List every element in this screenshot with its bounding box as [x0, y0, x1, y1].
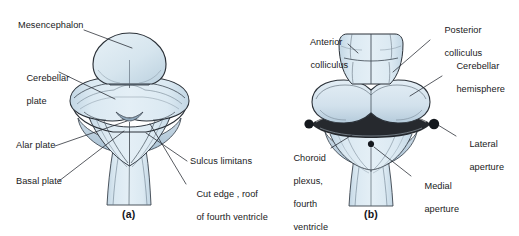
- label-anterior-colliculus-line2: colliculus: [310, 60, 348, 70]
- leader-anterior-colliculus: [348, 44, 358, 53]
- leader-posterior-colliculus: [393, 40, 430, 72]
- sulcus-limitans-line-right: [131, 121, 155, 163]
- sulcus-limitans-line-left: [104, 121, 128, 163]
- label-choroid-plexus-line1: Choroid: [293, 153, 326, 163]
- label-choroid-plexus-line4: ventricle: [293, 222, 328, 232]
- label-cut-edge-line2: of fourth ventricle: [196, 212, 267, 222]
- leader-mesencephalon: [84, 30, 132, 48]
- label-cerebellar-plate-line2: plate: [26, 96, 46, 106]
- tectum-plate-b: [339, 34, 403, 84]
- fourth-ventricle-floor-a: [88, 115, 171, 166]
- cerebellar-plate-a: [70, 70, 189, 121]
- lateral-aperture-marker: [429, 119, 439, 129]
- caption-panel-b: (b): [364, 208, 378, 220]
- medulla-stem-a: [107, 150, 151, 205]
- cerebellar-hemispheres-b: [312, 80, 430, 123]
- choroid-plexus-band: [311, 112, 431, 138]
- anatomy-figure: Mesencephalon Cerebellar plate Alar plat…: [0, 0, 519, 236]
- leader-cerebellar-hemisphere: [410, 76, 442, 96]
- label-medial-aperture: Medial aperture: [414, 170, 459, 227]
- isthmus-a: [107, 72, 152, 85]
- lateral-aperture-marker-left: [304, 119, 313, 128]
- label-cerebellar-hemisphere-line2: hemisphere: [456, 84, 505, 94]
- label-choroid-plexus-line2: plexus,: [293, 176, 322, 186]
- label-lateral-aperture-line2: aperture: [469, 162, 504, 172]
- label-lateral-aperture-line1: Lateral: [469, 139, 497, 149]
- label-choroid-plexus-line3: fourth: [293, 199, 317, 209]
- mesencephalon-a: [93, 33, 166, 84]
- label-cut-edge-line1: Cut edge , roof: [196, 189, 258, 199]
- label-anterior-colliculus: Anterior colliculus: [300, 26, 348, 83]
- label-cerebellar-plate-line1: Cerebellar: [26, 73, 69, 83]
- fossa-b: [330, 134, 412, 170]
- label-medial-aperture-line1: Medial: [424, 181, 451, 191]
- label-cerebellar-hemisphere-line1: Cerebellar: [456, 61, 499, 71]
- label-mesencephalon: Mesencephalon: [18, 20, 84, 31]
- medial-aperture-marker: [368, 141, 374, 147]
- label-cerebellar-plate: Cerebellar plate: [16, 62, 69, 119]
- rhombic-flare-b: [325, 132, 417, 168]
- leader-lateral-aperture: [438, 125, 456, 136]
- rhombic-flare-a: [78, 118, 181, 151]
- label-cut-edge-roof-fourth-ventricle: Cut edge , roof of fourth ventricle: [186, 178, 268, 235]
- label-alar-plate: Alar plate: [16, 140, 55, 151]
- label-basal-plate: Basal plate: [16, 176, 62, 187]
- label-sulcus-limitans: Sulcus limitans: [190, 156, 252, 167]
- label-lateral-aperture: Lateral aperture: [459, 128, 504, 185]
- leader-alar-plate: [55, 121, 127, 146]
- caption-panel-a: (a): [122, 208, 135, 220]
- leader-sulcus-limitans: [146, 133, 187, 161]
- leader-cut-edge: [150, 124, 186, 184]
- cut-edge-roof-a: [72, 86, 187, 132]
- label-cerebellar-hemisphere: Cerebellar hemisphere: [446, 50, 505, 107]
- label-posterior-colliculus-line1: Posterior: [444, 25, 481, 35]
- medulla-stem-b: [349, 152, 393, 206]
- panel-a-drawing: [70, 33, 189, 205]
- leader-choroid-plexus: [331, 135, 352, 148]
- colliculi-transverse: [344, 58, 398, 61]
- panel-a-leaders: [55, 30, 187, 184]
- label-medial-aperture-line2: aperture: [424, 204, 459, 214]
- label-choroid-plexus-fourth-ventricle: Choroid plexus, fourth ventricle: [283, 142, 328, 236]
- label-anterior-colliculus-line1: Anterior: [310, 37, 343, 47]
- leader-medial-aperture: [374, 147, 411, 176]
- central-fold-a: [116, 112, 143, 121]
- leader-basal-plate: [59, 131, 124, 181]
